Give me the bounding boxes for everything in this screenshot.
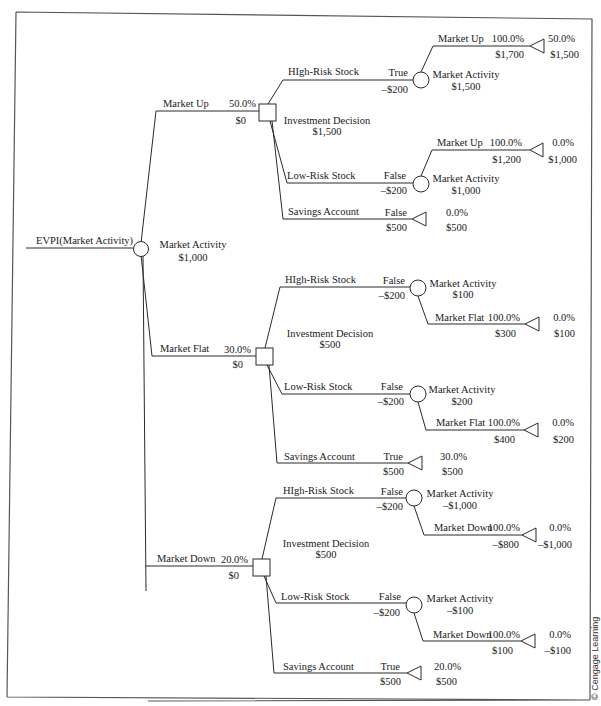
- outcome-name: Market Flat: [435, 312, 484, 323]
- terminal-prob: 0.0%: [446, 207, 468, 218]
- scenario-prob: 30.0%: [224, 344, 251, 355]
- chance-value: $200: [452, 396, 473, 407]
- option-cost: $500: [386, 222, 407, 233]
- option-cost: $500: [380, 676, 401, 687]
- terminal-value: –$100: [544, 645, 571, 656]
- option-cost: –$200: [377, 396, 404, 407]
- option-cost: $500: [383, 466, 404, 477]
- chance-node: [410, 280, 426, 296]
- outcome-name: Market Up: [437, 137, 483, 148]
- option-name: HIgh-Risk Stock: [283, 485, 355, 496]
- chance-value: $1,000: [452, 185, 481, 196]
- terminal-value: $100: [554, 328, 575, 339]
- terminal-node: [522, 528, 536, 542]
- terminal-value: –$1,000: [537, 539, 572, 550]
- scenario-name: Market Up: [163, 98, 209, 109]
- chance-label: Market Activity: [427, 488, 495, 499]
- decision-label: Investment Decision: [284, 115, 371, 126]
- chance-label: Market Activity: [433, 69, 501, 80]
- decision-label: Investment Decision: [287, 328, 374, 339]
- option-flag: False: [385, 207, 408, 218]
- outcome-prob: 100.0%: [488, 522, 521, 533]
- terminal-node: [524, 423, 538, 437]
- option-flag: True: [384, 451, 404, 462]
- scenario-value: $0: [233, 359, 244, 370]
- terminal-value: $200: [553, 434, 574, 445]
- outcome-name: Market Down: [433, 629, 492, 640]
- scenario-name: Market Down: [157, 553, 216, 564]
- chance-label: Market Activity: [433, 173, 501, 184]
- decision-value: $1,500: [313, 126, 342, 137]
- chance-value: –$1,000: [442, 500, 477, 511]
- terminal-prob: 30.0%: [440, 451, 467, 462]
- scenario-name: Market Flat: [160, 343, 209, 354]
- chance-node: [413, 72, 429, 88]
- chance-node: [410, 386, 426, 402]
- terminal-node: [530, 143, 543, 157]
- decision-value: $500: [316, 549, 337, 560]
- chance-label: Market Activity: [430, 278, 498, 289]
- decision-label: Investment Decision: [283, 538, 370, 549]
- terminal-prob: 0.0%: [553, 312, 575, 323]
- terminal-node: [407, 666, 421, 680]
- terminal-prob: 20.0%: [434, 661, 461, 672]
- option-cost: –$200: [378, 290, 405, 301]
- outcome-name: Market Up: [438, 33, 484, 44]
- outcome-payoff: $400: [494, 434, 515, 445]
- decision-node: [256, 348, 273, 365]
- terminal-prob: 0.0%: [552, 417, 574, 428]
- option-name: Low-Risk Stock: [287, 170, 356, 181]
- chance-value: –$100: [446, 605, 473, 616]
- connector-market-down: [143, 256, 146, 591]
- option-flag: False: [381, 486, 404, 497]
- option-name: Savings Account: [288, 206, 359, 217]
- decision-value: $500: [320, 339, 341, 350]
- outcome-prob: 100.0%: [490, 137, 523, 148]
- terminal-value: $500: [446, 222, 467, 233]
- terminal-prob: 0.0%: [552, 137, 574, 148]
- outcome-payoff: –$800: [492, 539, 519, 550]
- terminal-value: $500: [442, 466, 463, 477]
- terminal-prob: 50.0%: [548, 33, 575, 44]
- option-name: Savings Account: [284, 451, 355, 462]
- outcome-name: Market Down: [434, 522, 493, 533]
- outcome-prob: 100.0%: [492, 33, 525, 44]
- scenario-market-up: Market Up 50.0% $0 Investment Decision $…: [156, 33, 579, 233]
- terminal-value: $1,000: [548, 154, 577, 165]
- scenario-value: $0: [229, 570, 240, 581]
- root-chance-node: [134, 242, 149, 257]
- copyright-credit: © Cengage Learning: [590, 617, 600, 700]
- chance-label: Market Activity: [429, 384, 497, 395]
- option-name: Low-Risk Stock: [281, 591, 350, 602]
- chance-node: [406, 490, 422, 506]
- option-name: Savings Account: [283, 661, 354, 672]
- option-cost: –$200: [380, 185, 407, 196]
- option-name: Low-Risk Stock: [284, 381, 353, 392]
- chance-value: $1,500: [452, 81, 481, 92]
- outcome-prob: 100.0%: [488, 312, 521, 323]
- terminal-node: [530, 39, 544, 53]
- root-chance-label: Market Activity: [160, 239, 228, 250]
- decision-node: [259, 104, 276, 121]
- scenario-value: $0: [236, 115, 247, 126]
- scenario-market-down: Market Down 20.0% $0 Investment Decision…: [146, 485, 572, 687]
- outcome-prob: 100.0%: [488, 629, 521, 640]
- chance-value: $100: [453, 289, 474, 300]
- outcome-prob: 100.0%: [488, 417, 521, 428]
- terminal-prob: 0.0%: [549, 629, 571, 640]
- terminal-node: [521, 634, 535, 648]
- outcome-payoff: $100: [492, 645, 513, 656]
- option-name: HIgh-Risk Stock: [288, 66, 360, 77]
- scenario-prob: 50.0%: [229, 98, 256, 109]
- option-flag: False: [383, 275, 406, 286]
- terminal-prob: 0.0%: [549, 522, 571, 533]
- connector-market-up: [141, 111, 156, 243]
- decision-node: [253, 559, 270, 576]
- outcome-payoff: $300: [495, 328, 516, 339]
- option-name: HIgh-Risk Stock: [285, 274, 357, 285]
- option-flag: True: [381, 661, 401, 672]
- option-cost: –$200: [373, 607, 400, 618]
- terminal-value: $1,500: [550, 49, 579, 60]
- terminal-value: $500: [436, 676, 457, 687]
- option-cost: –$200: [376, 501, 403, 512]
